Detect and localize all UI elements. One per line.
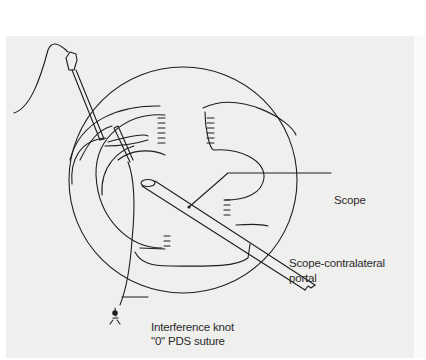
lateral-meniscus — [203, 102, 296, 215]
suture-needle — [66, 52, 104, 140]
medial-meniscus — [70, 106, 170, 249]
scope-label: Scope — [334, 194, 366, 207]
knot-label-line1: Interference knot — [151, 321, 234, 334]
interference-knot-icon — [110, 308, 120, 324]
knot-label-line2: "0" PDS suture — [151, 335, 225, 348]
suture-strand — [120, 162, 134, 305]
suture-tail — [14, 44, 68, 113]
meniscus-repair-diagram — [0, 0, 426, 360]
scope-leader-line — [189, 173, 331, 207]
portal-label-line1: Scope-contralateral — [289, 257, 385, 270]
portal-label-line2: portal — [289, 272, 317, 285]
posterior-outline — [236, 224, 268, 226]
